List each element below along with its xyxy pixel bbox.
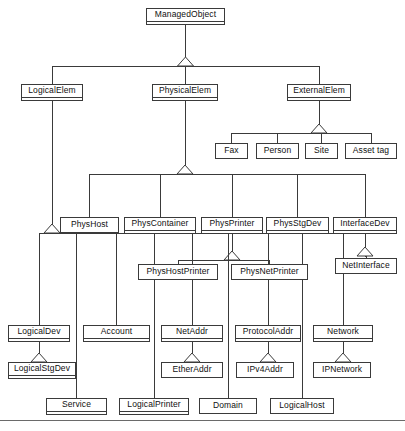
class-node-interfacedev[interactable]: InterfaceDev (333, 217, 397, 234)
class-node-logicalhost[interactable]: LogicalHost (270, 398, 334, 414)
class-node-ipnetwork[interactable]: IPNetwork (313, 362, 371, 378)
class-node-label: EtherAddr (172, 365, 211, 374)
class-node-label: Network (327, 327, 359, 336)
class-node-label: InterfaceDev (340, 219, 389, 228)
generalization-triangle-interfacedev (357, 247, 373, 256)
class-node-etheraddr[interactable]: EtherAddr (161, 362, 223, 378)
generalization-triangle-network (335, 353, 351, 362)
class-node-label: PhysPrinter (209, 219, 254, 228)
generalization-triangle-logicaldev (31, 353, 47, 362)
class-node-label: Fax (224, 146, 238, 155)
class-node-label: IPNetwork (322, 365, 362, 374)
class-node-account[interactable]: Account (83, 325, 150, 342)
class-node-physprinter[interactable]: PhysPrinter (201, 217, 263, 234)
class-node-label: PhysicalElem (159, 86, 211, 95)
class-node-site[interactable]: Site (305, 143, 338, 159)
class-node-label: ProtocolAddr (243, 327, 293, 336)
class-node-label: LogicalDev (17, 327, 60, 336)
class-node-label: PhysNetPrinter (240, 267, 299, 276)
class-node-externalelem[interactable]: ExternalElem (287, 84, 351, 101)
class-node-label: PhysHost (71, 220, 108, 229)
class-node-label: PhysContainer (131, 219, 188, 228)
class-node-label: PhysHostPrinter (147, 267, 210, 276)
class-node-label: ManagedObject (155, 10, 216, 19)
class-node-netaddr[interactable]: NetAddr (161, 325, 223, 342)
class-node-physicalelem[interactable]: PhysicalElem (152, 84, 218, 101)
class-node-label: IPv4Addr (247, 365, 283, 374)
class-node-logicalstgdev[interactable]: LogicalStgDev (8, 362, 76, 379)
class-node-logicaldev[interactable]: LogicalDev (8, 325, 70, 342)
class-node-label: LogicalStgDev (14, 364, 70, 373)
class-node-physnetprinter[interactable]: PhysNetPrinter (231, 264, 308, 280)
class-node-label: NetInterface (342, 261, 390, 270)
class-node-physhostprinter[interactable]: PhysHostPrinter (138, 264, 218, 280)
class-node-fax[interactable]: Fax (215, 143, 248, 159)
class-node-label: LogicalHost (279, 401, 325, 410)
class-node-label: ExternalElem (293, 86, 345, 95)
class-node-assettag[interactable]: Asset tag (345, 143, 397, 159)
class-node-netinterface[interactable]: NetInterface (335, 258, 397, 274)
class-node-logicalprinter[interactable]: LogicalPrinter (119, 398, 189, 415)
class-node-managedobject[interactable]: ManagedObject (146, 8, 225, 25)
class-node-label: Asset tag (353, 146, 389, 155)
class-hierarchy-diagram: ManagedObjectLogicalElemPhysicalElemExte… (0, 0, 405, 431)
class-node-domain[interactable]: Domain (199, 398, 257, 414)
footer-divider (0, 420, 405, 421)
class-node-physcontainer[interactable]: PhysContainer (124, 217, 196, 234)
class-node-protocoladdr[interactable]: ProtocolAddr (235, 325, 301, 342)
class-node-label: PhysStgDev (274, 219, 322, 228)
class-node-logicalelem[interactable]: LogicalElem (21, 84, 83, 101)
class-node-label: LogicalPrinter (127, 400, 180, 409)
generalization-triangle-externalelem (311, 124, 327, 133)
class-node-label: Domain (213, 401, 243, 410)
class-node-label: LogicalElem (28, 86, 75, 95)
generalization-triangle-logicalelem (44, 224, 60, 233)
class-node-label: Site (314, 146, 329, 155)
generalization-triangle-protocoladdr (260, 353, 276, 362)
class-node-physhost[interactable]: PhysHost (60, 217, 119, 233)
class-node-label: Service (62, 400, 91, 409)
generalization-triangle-physicalelem (177, 165, 193, 174)
generalization-triangle-managedobject (178, 57, 194, 66)
class-node-label: NetAddr (176, 327, 208, 336)
class-node-network[interactable]: Network (313, 325, 373, 342)
generalization-triangle-netaddr (184, 353, 200, 362)
class-node-physstgdev[interactable]: PhysStgDev (266, 217, 329, 234)
class-node-label: Account (101, 327, 132, 336)
class-node-person[interactable]: Person (256, 143, 299, 159)
class-node-ipv4addr[interactable]: IPv4Addr (236, 362, 294, 378)
class-node-label: Person (264, 146, 292, 155)
generalization-triangle-physprinter (224, 251, 240, 260)
class-node-service[interactable]: Service (46, 398, 107, 415)
